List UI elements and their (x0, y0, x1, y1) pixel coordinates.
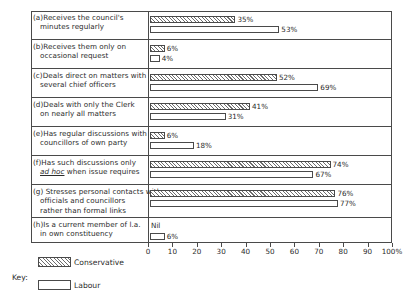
bar-conservative-a-value: 35% (237, 16, 253, 23)
bar-conservative-e-value: 6% (167, 132, 178, 139)
bar-labour-a-value: 53% (281, 26, 297, 33)
bar-conservative-c-value: 52% (279, 74, 295, 81)
x-tick-label-50: 50 (265, 248, 274, 256)
chart-row-e: (e)Has regular discussions withcouncillo… (31, 127, 392, 156)
x-tick-70 (319, 243, 320, 247)
bar-labour-f (150, 171, 313, 178)
x-tick-label-20: 20 (192, 248, 201, 256)
chart-row-g: (g) Stresses personal contacts withoffic… (31, 185, 392, 218)
x-tick-100 (392, 243, 393, 247)
bar-conservative-f-value: 74% (333, 161, 349, 168)
bar-labour-b (150, 55, 160, 62)
bar-conservative-a (150, 16, 235, 23)
bar-labour-d-value: 31% (228, 113, 244, 120)
x-tick-label-10: 10 (168, 248, 177, 256)
row-label-h: (h)Is a current member of l.a.in own con… (33, 220, 147, 239)
bar-labour-e (150, 142, 194, 149)
chart-row-b: (b)Receives them only onoccasional reque… (31, 40, 392, 69)
bar-conservative-g-value: 76% (337, 190, 353, 197)
x-tick-label-70: 70 (314, 248, 323, 256)
x-tick-30 (221, 243, 222, 247)
x-tick-50 (270, 243, 271, 247)
chart-row-d: (d)Deals with only the Clerkon nearly al… (31, 98, 392, 127)
x-tick-label-60: 60 (290, 248, 299, 256)
legend-label-labour: Labour (74, 282, 100, 290)
row-label-f: (f)Has such discussions onlyad hoc when … (33, 158, 147, 177)
bar-conservative-h-value: Nil (151, 222, 160, 229)
row-label-c: (c)Deals direct on matters withseveral c… (33, 71, 147, 90)
chart-row-f: (f)Has such discussions onlyad hoc when … (31, 156, 392, 185)
bar-labour-c-value: 69% (320, 84, 336, 91)
legend-swatch-labour (38, 280, 71, 290)
bar-conservative-f (150, 161, 331, 168)
row-label-d: (d)Deals with only the Clerkon nearly al… (33, 100, 147, 119)
bar-chart: (a)Receives the council'sminutes regular… (0, 0, 415, 306)
bar-labour-a (150, 26, 279, 33)
x-tick-60 (294, 243, 295, 247)
bar-labour-g (150, 200, 338, 207)
x-tick-90 (368, 243, 369, 247)
x-tick-label-0: 0 (146, 248, 151, 256)
legend-label-conservative: Conservative (74, 259, 124, 267)
bar-conservative-d (150, 103, 250, 110)
bar-labour-f-value: 67% (315, 171, 331, 178)
bar-labour-g-value: 77% (340, 200, 356, 207)
legend: Key: Conservative Labour (12, 256, 192, 302)
bar-labour-d (150, 113, 226, 120)
x-tick-40 (246, 243, 247, 247)
bar-conservative-e (150, 132, 165, 139)
legend-title: Key: (12, 273, 28, 282)
bar-conservative-b-value: 6% (167, 45, 178, 52)
legend-swatch-conservative (38, 257, 71, 267)
bar-conservative-b (150, 45, 165, 52)
x-tick-10 (172, 243, 173, 247)
x-tick-0 (148, 243, 149, 247)
x-tick-label-30: 30 (217, 248, 226, 256)
row-label-g: (g) Stresses personal contacts withoffic… (33, 187, 147, 215)
row-label-a: (a)Receives the council'sminutes regular… (33, 13, 147, 32)
chart-row-c: (c)Deals direct on matters withseveral c… (31, 69, 392, 98)
chart-row-a: (a)Receives the council'sminutes regular… (31, 11, 392, 40)
bar-area-d: 41%31% (148, 98, 392, 126)
bar-area-b: 6%4% (148, 40, 392, 68)
row-label-e: (e)Has regular discussions withcouncillo… (33, 129, 147, 148)
bar-area-c: 52%69% (148, 69, 392, 97)
bar-labour-b-value: 4% (162, 55, 173, 62)
bar-area-g: 76%77% (148, 185, 392, 217)
bar-conservative-c (150, 74, 277, 81)
bar-area-f: 74%67% (148, 156, 392, 184)
bar-labour-c (150, 84, 318, 91)
bar-area-a: 35%53% (148, 11, 392, 39)
x-tick-label-100: 100% (382, 248, 403, 256)
row-label-b: (b)Receives them only onoccasional reque… (33, 42, 147, 61)
bar-labour-h-value: 6% (167, 233, 178, 240)
x-tick-label-80: 80 (339, 248, 348, 256)
bar-area-e: 6%18% (148, 127, 392, 155)
x-tick-label-90: 90 (363, 248, 372, 256)
x-tick-80 (343, 243, 344, 247)
bar-labour-e-value: 18% (196, 142, 212, 149)
x-tick-20 (197, 243, 198, 247)
bar-conservative-g (150, 190, 335, 197)
bar-labour-h (150, 233, 165, 240)
x-tick-label-40: 40 (241, 248, 250, 256)
bar-conservative-d-value: 41% (252, 103, 268, 110)
